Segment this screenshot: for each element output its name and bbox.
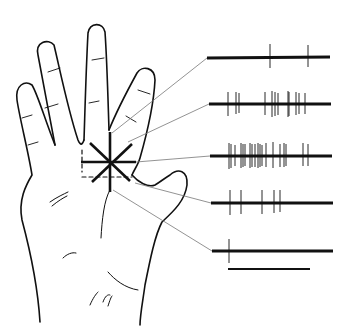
trace-2 (209, 91, 331, 117)
hand-diagram (0, 0, 353, 329)
recording-traces (207, 44, 333, 263)
trace-4 (211, 190, 333, 215)
trace-1 (207, 44, 330, 68)
figure (0, 0, 353, 329)
trace-3 (210, 142, 332, 169)
hand-outline (17, 25, 187, 325)
trace-5 (212, 239, 333, 263)
stimulus-star (81, 132, 136, 192)
